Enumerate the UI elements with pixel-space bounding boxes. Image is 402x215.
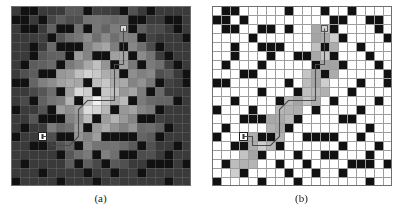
grid-map-a bbox=[11, 6, 191, 186]
caption-a: (a) bbox=[94, 191, 106, 205]
grid-map-b bbox=[212, 6, 392, 186]
caption-b: (b) bbox=[295, 191, 308, 205]
figure-root: (a) (b) bbox=[0, 0, 402, 215]
grid-a-wrapper bbox=[11, 6, 191, 186]
panel-b: (b) bbox=[201, 0, 402, 215]
panel-a: (a) bbox=[0, 0, 201, 215]
grid-b-wrapper bbox=[212, 6, 392, 186]
